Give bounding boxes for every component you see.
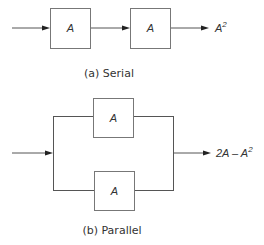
arrow-head-icon <box>201 26 209 31</box>
arrow-head-icon <box>122 26 130 31</box>
arrow-head-icon <box>42 26 50 31</box>
serial-output-base: A <box>214 22 222 34</box>
serial-block-2-label: A <box>146 22 154 34</box>
parallel-output-label: 2A – A2 <box>215 145 253 159</box>
parallel-output-prefix: 2A – A <box>215 147 248 159</box>
parallel-output-exponent: 2 <box>247 145 253 154</box>
reliability-diagram: A A A2 (a) Serial A A 2A – A2 (b) Parall… <box>0 0 264 245</box>
serial-block-1-label: A <box>66 22 74 34</box>
parallel-block-bottom-label: A <box>110 185 118 197</box>
parallel-caption: (b) Parallel <box>82 224 141 237</box>
serial-diagram: A A A2 (a) Serial <box>12 9 227 81</box>
serial-output-label: A2 <box>214 20 227 34</box>
arrow-head-icon <box>45 151 53 156</box>
parallel-block-top-label: A <box>109 112 117 124</box>
arrow-head-icon <box>203 151 211 156</box>
serial-output-exponent: 2 <box>221 20 227 29</box>
serial-caption: (a) Serial <box>84 67 134 80</box>
parallel-diagram: A A 2A – A2 (b) Parallel <box>12 99 253 238</box>
